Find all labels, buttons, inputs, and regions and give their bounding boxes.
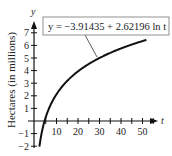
y-axis-var: y (30, 6, 36, 17)
y-tick-label: 4 (24, 65, 29, 76)
equation-label: y = −3.91435 + 2.62196 ln t (48, 21, 166, 32)
x-tick-label: 10 (52, 126, 62, 137)
y-tick-label: 2 (24, 90, 29, 101)
x-axis-var: t (161, 115, 164, 126)
x-tick-label: 40 (116, 126, 126, 137)
x-tick-label: 30 (95, 126, 105, 137)
y-tick-label: −1 (18, 128, 29, 139)
y-tick-label: 1 (24, 103, 29, 114)
x-axis-arrow (150, 118, 158, 124)
y-tick-label: 6 (24, 40, 29, 51)
x-tick-label: 50 (138, 126, 148, 137)
y-axis-arrow (31, 21, 37, 29)
y-tick-label: 5 (24, 53, 29, 64)
y-tick-label: 7 (24, 27, 29, 38)
chart: Hectares (in millions) y t −2−11234567 1… (0, 0, 172, 156)
y-axis-title: Hectares (in millions) (5, 32, 18, 128)
y-tick-label: −2 (18, 141, 29, 152)
y-tick-label: 3 (24, 78, 29, 89)
equation-leader-line (85, 35, 97, 57)
x-tick-label: 20 (73, 126, 83, 137)
